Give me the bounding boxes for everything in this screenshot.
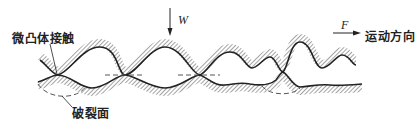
asperity-contact-label: 微凸体接触 — [12, 29, 75, 46]
upper-surface-hatching — [40, 38, 356, 71]
asperity-contact-diagram: 微凸体接触 破裂面 W F 运动方向 — [0, 0, 419, 126]
load-arrow-icon — [168, 8, 173, 36]
lower-surface-hatching — [38, 76, 362, 92]
load-label: W — [178, 13, 188, 28]
force-label: F — [341, 18, 348, 33]
fracture-surface-leader — [62, 96, 72, 107]
motion-direction-label: 运动方向 — [365, 27, 415, 44]
fracture-surface-label: 破裂面 — [72, 104, 110, 121]
